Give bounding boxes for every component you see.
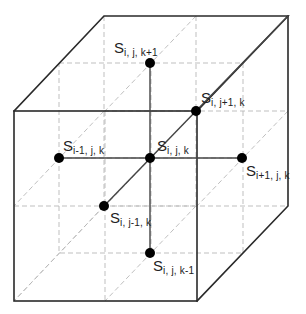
label-k-plus: Si, j, k+1 <box>114 40 158 56</box>
node-k-plus <box>145 58 155 68</box>
stencil-diagram: Si, j, k+1 Si, j+1, k Si-1, j, k Si, j, … <box>0 0 306 314</box>
label-k-minus: Si, j, k-1 <box>153 258 194 274</box>
node-j-plus <box>191 106 201 116</box>
node-i-minus <box>54 153 64 163</box>
label-center: Si, j, k <box>157 138 189 154</box>
label-j-plus: Si, j+1, k <box>201 90 245 106</box>
node-center <box>145 153 155 163</box>
label-j-minus: Si, j-1, k <box>110 210 151 226</box>
node-j-minus <box>99 201 109 211</box>
label-i-plus: Si+1, j, k <box>246 163 290 179</box>
label-i-minus: Si-1, j, k <box>63 138 104 154</box>
stencil-connectors <box>59 16 288 253</box>
